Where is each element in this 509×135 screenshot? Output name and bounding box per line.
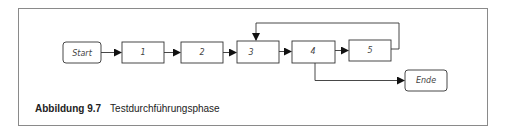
flow-diagram: Start 1 2 3 4 5 Ende xyxy=(0,0,509,135)
node-ende: Ende xyxy=(405,70,447,91)
edge-4-ende xyxy=(315,63,404,81)
node-4-label: 4 xyxy=(310,47,315,56)
node-start-label: Start xyxy=(72,49,92,58)
node-ende-label: Ende xyxy=(416,76,436,85)
node-2: 2 xyxy=(181,42,223,63)
node-1: 1 xyxy=(122,42,164,63)
node-start: Start xyxy=(63,42,101,63)
node-4: 4 xyxy=(292,41,335,63)
figure-caption: Abbildung 9.7Testdurchführungsphase xyxy=(35,103,220,114)
caption-title: Testdurchführungsphase xyxy=(110,103,220,114)
node-3-label: 3 xyxy=(248,48,253,57)
node-1-label: 1 xyxy=(140,48,145,57)
node-5: 5 xyxy=(349,40,391,61)
node-5-label: 5 xyxy=(367,46,372,55)
caption-number: Abbildung 9.7 xyxy=(35,103,101,114)
node-3: 3 xyxy=(237,41,279,63)
node-2-label: 2 xyxy=(199,48,204,57)
